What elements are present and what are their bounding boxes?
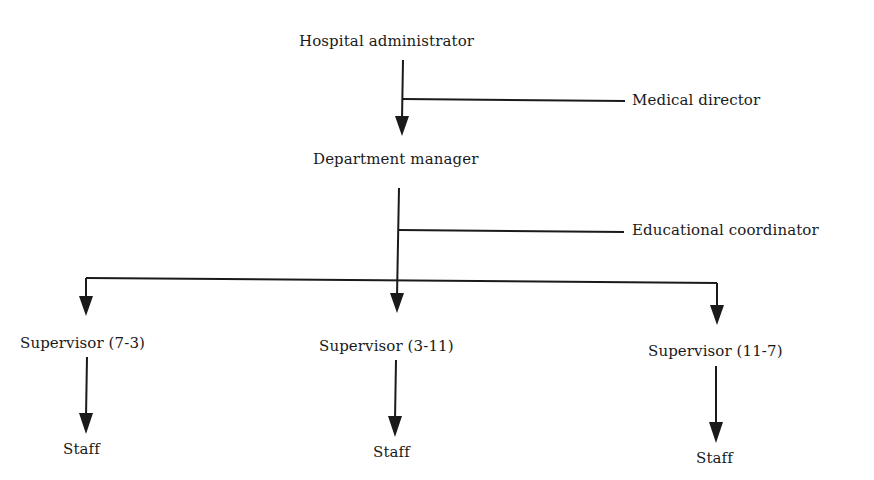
supervisor-bus-line (86, 278, 717, 283)
arrowhead-icon (79, 296, 93, 316)
node-supervisor-11-7: Supervisor (11-7) (648, 342, 783, 360)
arrowhead-icon (710, 305, 724, 325)
admin-to-manager-line (402, 60, 403, 120)
node-supervisor-7-3: Supervisor (7-3) (20, 334, 145, 352)
arrowhead-icon (388, 416, 402, 437)
medical-director-line (403, 99, 625, 101)
educational-coordinator-line (399, 230, 624, 232)
sup2-to-staff-line (395, 360, 396, 420)
node-department-manager: Department manager (313, 150, 478, 168)
node-educational-coordinator: Educational coordinator (632, 221, 819, 239)
node-supervisor-3-11: Supervisor (3-11) (319, 337, 454, 355)
arrowhead-icon (79, 413, 93, 434)
node-staff-3: Staff (696, 449, 733, 467)
node-staff-2: Staff (373, 443, 410, 461)
arrowhead-icon (395, 116, 409, 136)
connector-lines (0, 0, 874, 480)
sup1-to-staff-line (86, 357, 87, 417)
node-medical-director: Medical director (632, 91, 760, 109)
node-staff-1: Staff (63, 440, 100, 458)
arrowhead-icon (390, 293, 404, 313)
org-chart: Hospital administrator Medical director … (0, 0, 874, 480)
arrowhead-icon (709, 422, 723, 443)
node-hospital-administrator: Hospital administrator (299, 32, 474, 50)
